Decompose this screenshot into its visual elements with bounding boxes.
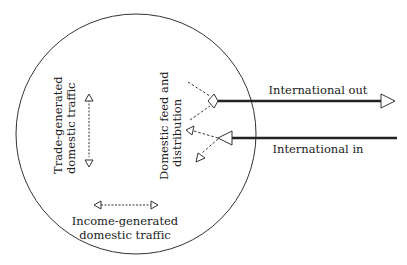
income-label-line2: domestic traffic xyxy=(79,228,171,242)
trade-label-line1: Trade-generated xyxy=(51,76,65,174)
income-generated-arrow xyxy=(94,201,158,209)
trade-generated-arrow xyxy=(85,94,93,167)
feed-label-line2: distribution xyxy=(170,98,184,167)
international-in-label: International in xyxy=(272,142,364,156)
international-out-label: International out xyxy=(269,83,368,97)
trade-label-line2: domestic traffic xyxy=(64,82,78,174)
diagram-canvas: Trade-generated domestic traffic Domesti… xyxy=(0,0,407,265)
domestic-feed-arrows xyxy=(186,82,218,162)
feed-label-line1: Domestic feed and xyxy=(157,71,171,180)
income-label-line1: Income-generated xyxy=(72,214,179,228)
